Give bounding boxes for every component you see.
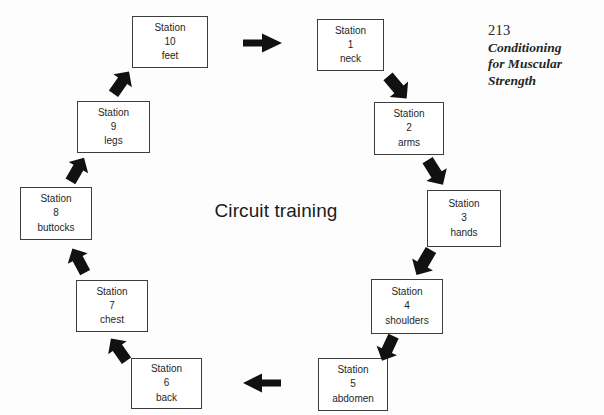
station-word-9: Station bbox=[98, 106, 129, 120]
page-number: 213 bbox=[488, 22, 596, 40]
arrow-9-to-10 bbox=[106, 68, 136, 98]
arrow-1-to-2 bbox=[381, 71, 413, 103]
station-node-4: Station 4 shoulders bbox=[371, 279, 443, 334]
arrow-4-to-5 bbox=[373, 333, 403, 363]
arrow-6-to-7 bbox=[104, 335, 134, 365]
station-word-1: Station bbox=[335, 24, 366, 38]
station-node-10: Station 10 feet bbox=[132, 16, 208, 68]
station-number-3: 3 bbox=[461, 211, 467, 225]
station-node-9: Station 9 legs bbox=[77, 101, 150, 153]
station-body-8: buttocks bbox=[37, 221, 74, 235]
running-head-line-3: Strength bbox=[488, 73, 596, 89]
running-head-line-1: Conditioning bbox=[488, 40, 596, 56]
station-word-3: Station bbox=[448, 197, 479, 211]
running-head: Conditioning for Muscular Strength bbox=[488, 40, 596, 89]
station-number-10: 10 bbox=[164, 35, 175, 49]
station-node-2: Station 2 arms bbox=[374, 102, 444, 155]
page-header: 213 Conditioning for Muscular Strength bbox=[488, 22, 596, 89]
station-word-8: Station bbox=[40, 192, 71, 206]
station-body-3: hands bbox=[450, 226, 477, 240]
arrow-5-to-6 bbox=[243, 373, 281, 393]
station-word-7: Station bbox=[96, 285, 127, 299]
circuit-training-diagram-page: 213 Conditioning for Muscular Strength C… bbox=[0, 0, 604, 415]
station-node-5: Station 5 abdomen bbox=[318, 358, 388, 411]
station-body-10: feet bbox=[162, 49, 179, 63]
station-number-1: 1 bbox=[348, 38, 354, 52]
station-body-7: chest bbox=[100, 313, 124, 327]
arrow-8-to-9 bbox=[62, 155, 92, 185]
station-word-10: Station bbox=[154, 21, 185, 35]
station-node-3: Station 3 hands bbox=[427, 190, 501, 247]
station-number-6: 6 bbox=[164, 376, 170, 390]
station-number-8: 8 bbox=[53, 206, 59, 220]
station-word-6: Station bbox=[151, 362, 182, 376]
arrow-7-to-8 bbox=[64, 246, 94, 276]
station-number-2: 2 bbox=[406, 121, 412, 135]
arrow-3-to-4 bbox=[408, 246, 440, 278]
station-word-4: Station bbox=[391, 285, 422, 299]
station-body-9: legs bbox=[104, 134, 122, 148]
arrow-10-to-1 bbox=[243, 33, 283, 53]
station-number-5: 5 bbox=[350, 377, 356, 391]
station-node-1: Station 1 neck bbox=[317, 19, 384, 71]
running-head-line-2: for Muscular bbox=[488, 56, 596, 72]
diagram-title: Circuit training bbox=[186, 200, 366, 222]
station-node-6: Station 6 back bbox=[131, 358, 202, 409]
station-number-7: 7 bbox=[109, 299, 115, 313]
station-number-9: 9 bbox=[111, 120, 117, 134]
arrow-2-to-3 bbox=[419, 156, 451, 188]
station-body-1: neck bbox=[340, 52, 361, 66]
station-node-7: Station 7 chest bbox=[76, 280, 148, 332]
station-body-2: arms bbox=[398, 136, 420, 150]
station-node-8: Station 8 buttocks bbox=[20, 187, 92, 240]
station-body-4: shoulders bbox=[385, 314, 428, 328]
station-word-5: Station bbox=[337, 363, 368, 377]
station-word-2: Station bbox=[393, 107, 424, 121]
station-body-6: back bbox=[156, 391, 177, 405]
station-body-5: abdomen bbox=[332, 392, 374, 406]
station-number-4: 4 bbox=[404, 299, 410, 313]
